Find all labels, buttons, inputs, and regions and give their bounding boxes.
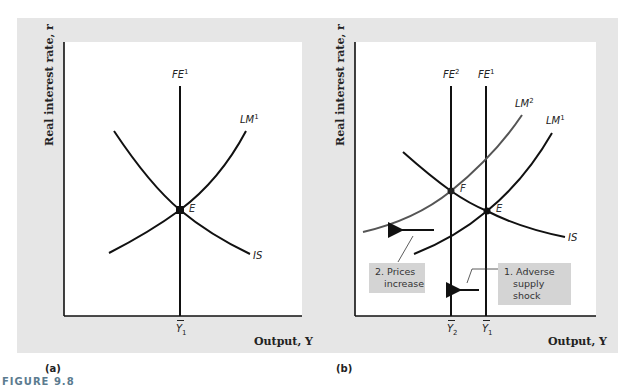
shock-note-line2: supply shock [504,278,565,302]
figure-curves [0,0,633,389]
panel-b-is-curve [403,152,565,237]
panel-a-x-axis-label: Output, Y [254,335,313,348]
panel-b-lm2-curve [363,115,522,232]
panel-a-equilibrium-e-marker [176,206,184,214]
panel-b-fe1-label: FE1 [478,68,495,80]
panel-a-axes [64,42,302,316]
panel-b-y1-tick-label: Y1 [482,323,493,337]
panel-a-y-axis-label: Real interest rate, r [43,24,56,146]
panel-b-lm1-curve [414,133,552,254]
panel-b-is-label: IS [568,232,577,243]
panel-b-fe2-label: FE2 [443,68,460,80]
panel-b-y2-tick-label: Y2 [447,323,458,337]
adverse-supply-shock-note: 1. Adverse supply shock [498,263,571,305]
panel-b-lm1-label: LM1 [546,114,565,126]
panel-a-y1-tick-label: Y1 [176,323,187,337]
panel-a-fe1-label: FE1 [172,68,189,80]
panel-b-point-f-label: F [460,183,466,194]
prices-note-line1: 2. Prices [375,266,419,278]
panel-a-lm1-label: LM1 [240,113,259,125]
panel-b-point-e-marker [484,208,491,215]
panel-b-y-axis-label: Real interest rate, r [334,24,347,146]
shock-note-leader [467,269,499,283]
prices-note-line2: increase [375,278,419,290]
panel-a-tag: (a) [45,363,61,374]
panel-b-lm2-label: LM2 [515,97,534,109]
prices-increase-note: 2. Prices increase [369,263,425,293]
shock-note-line1: 1. Adverse [504,266,565,278]
panel-b-point-f-marker [448,188,455,195]
panel-b-point-e-label: E [496,203,502,214]
panel-a-point-e-label: E [189,203,195,214]
panel-a-lm1-curve [109,131,246,253]
prices-note-leader [398,236,413,262]
panel-a-is-label: IS [253,250,262,261]
figure-title: FIGURE 9.8 [2,376,75,387]
panel-b-tag: (b) [336,363,352,374]
panel-a-is-curve [114,131,250,254]
panel-b-x-axis-label: Output, Y [548,335,607,348]
